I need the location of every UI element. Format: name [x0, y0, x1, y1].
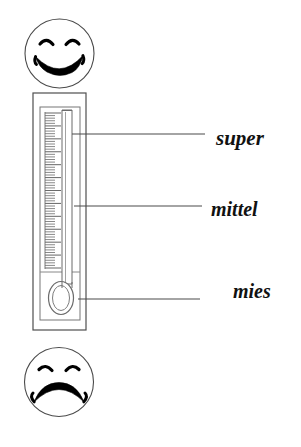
- label-mittel: mittel: [211, 199, 258, 219]
- thermometer-figure-page: super mittel mies: [0, 0, 301, 447]
- leader-lines: [72, 134, 205, 299]
- happy-face-smile-right-tip-icon: [82, 56, 84, 64]
- happy-face: [25, 19, 94, 88]
- happy-face-outline: [25, 19, 94, 88]
- label-mies: mies: [233, 281, 271, 301]
- label-super: super: [216, 128, 264, 149]
- thermometer-bulb-inner: [53, 286, 70, 311]
- sad-face: [25, 348, 94, 417]
- figure-canvas: [0, 0, 301, 447]
- sad-face-outline: [25, 348, 94, 417]
- happy-face-smile-left-tip-icon: [35, 57, 37, 65]
- thermometer-capillary-tube: [62, 110, 72, 284]
- thermometer: [33, 93, 86, 330]
